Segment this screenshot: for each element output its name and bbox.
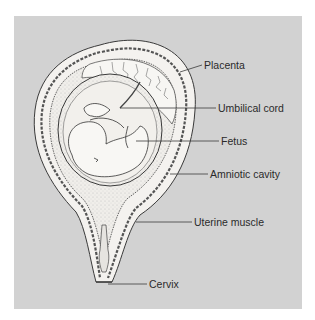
label-amniotic-cavity: Amniotic cavity — [210, 168, 280, 180]
label-cervix: Cervix — [149, 278, 179, 290]
label-fetus: Fetus — [221, 135, 247, 147]
uterus-illustration — [0, 0, 315, 320]
label-placenta: Placenta — [204, 59, 245, 71]
label-umbilical-cord: Umbilical cord — [218, 102, 284, 114]
label-uterine-muscle: Uterine muscle — [194, 216, 264, 228]
